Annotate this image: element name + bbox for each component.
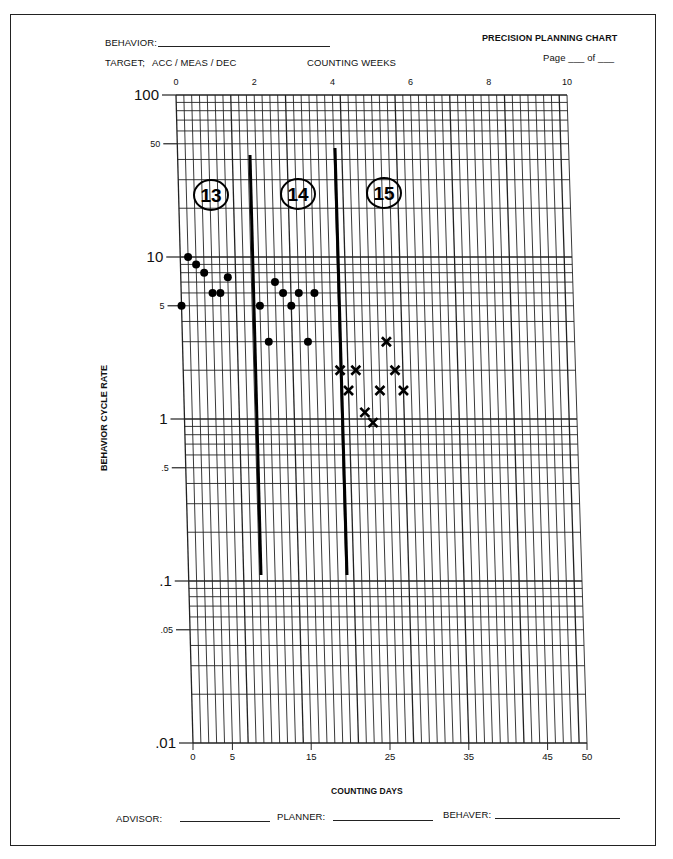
svg-text:14: 14 bbox=[287, 184, 309, 205]
svg-text:5: 5 bbox=[230, 751, 235, 762]
y-axis-ticks: 100501051.5.1.05.01 bbox=[134, 86, 193, 751]
data-point-dot bbox=[265, 338, 273, 346]
data-point-dot bbox=[209, 289, 217, 297]
svg-text:35: 35 bbox=[464, 751, 475, 762]
svg-text:4: 4 bbox=[330, 77, 335, 87]
svg-text:13: 13 bbox=[200, 185, 221, 206]
planner-label: PLANNER: bbox=[277, 811, 325, 822]
behaver-field[interactable] bbox=[495, 818, 620, 819]
x-axis-weeks: 0246810 bbox=[173, 77, 572, 87]
data-point-dot bbox=[216, 289, 224, 297]
svg-text:2: 2 bbox=[252, 77, 257, 87]
data-point-dot bbox=[279, 289, 287, 297]
svg-text:15: 15 bbox=[306, 751, 317, 762]
data-point-dot bbox=[256, 302, 264, 310]
svg-text:100: 100 bbox=[134, 86, 159, 103]
x-axis-days: 051525354550 bbox=[190, 743, 592, 762]
svg-text:45: 45 bbox=[542, 751, 553, 762]
data-point-dot bbox=[184, 253, 192, 261]
data-point-dot bbox=[287, 302, 295, 310]
data-point-dot bbox=[224, 273, 232, 281]
data-point-dot bbox=[304, 338, 312, 346]
svg-text:25: 25 bbox=[385, 751, 396, 762]
data-point-dot bbox=[271, 278, 279, 286]
svg-text:.5: .5 bbox=[161, 463, 169, 473]
svg-text:.05: .05 bbox=[161, 625, 174, 635]
svg-text:10: 10 bbox=[562, 77, 572, 87]
svg-text:0: 0 bbox=[190, 751, 195, 762]
data-point-dot bbox=[178, 302, 186, 310]
y-axis-title: BEHAVIOR CYCLE RATE bbox=[99, 365, 109, 471]
advisor-label: ADVISOR: bbox=[116, 813, 162, 824]
data-point-dot bbox=[310, 289, 318, 297]
svg-text:.1: .1 bbox=[159, 572, 172, 589]
advisor-field[interactable] bbox=[180, 821, 270, 822]
series-phase-14 bbox=[256, 278, 319, 346]
svg-text:6: 6 bbox=[408, 77, 413, 87]
data-point-dot bbox=[200, 269, 208, 277]
svg-text:.01: .01 bbox=[155, 734, 176, 751]
svg-text:50: 50 bbox=[150, 139, 160, 149]
svg-text:15: 15 bbox=[373, 183, 395, 204]
svg-text:0: 0 bbox=[173, 77, 178, 87]
data-point-dot bbox=[192, 260, 200, 268]
svg-text:50: 50 bbox=[582, 751, 593, 762]
svg-text:5: 5 bbox=[160, 301, 165, 311]
svg-text:1: 1 bbox=[159, 410, 167, 427]
data-point-dot bbox=[295, 289, 303, 297]
planner-field[interactable] bbox=[333, 820, 433, 821]
svg-text:8: 8 bbox=[486, 77, 491, 87]
behaver-label: BEHAVER: bbox=[443, 809, 491, 820]
days-axis-title: COUNTING DAYS bbox=[331, 786, 403, 796]
svg-text:10: 10 bbox=[147, 248, 164, 265]
